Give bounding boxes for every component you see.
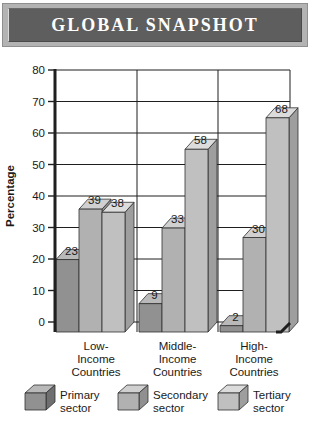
- category-label: Countries: [229, 366, 278, 378]
- legend-swatch-primary-sector-front: [25, 393, 46, 410]
- legend-label: Primary: [60, 389, 100, 401]
- bar-tertiary-sector-low-front: [102, 212, 125, 332]
- bar-tertiary-sector-low-side: [125, 202, 134, 332]
- category-label: Income: [77, 353, 115, 365]
- page: GLOBAL SNAPSHOT 233938933582306801020304…: [0, 0, 310, 430]
- legend-label: Secondary: [153, 389, 208, 401]
- y-tick-label: 70: [32, 96, 45, 108]
- category-label: High-: [240, 340, 268, 352]
- y-tick-label: 10: [32, 285, 45, 297]
- category-label: Countries: [71, 366, 120, 378]
- bar-value-label: 23: [65, 245, 78, 257]
- y-tick-label: 50: [32, 159, 45, 171]
- legend-swatch-tertiary-sector-front: [218, 393, 239, 410]
- bar-value-label: 39: [88, 194, 101, 206]
- category-label: Middle-: [159, 340, 197, 352]
- y-tick-label: 80: [32, 64, 45, 76]
- title-banner: GLOBAL SNAPSHOT: [2, 3, 308, 47]
- legend-swatch-secondary-sector-front: [118, 393, 139, 410]
- bar-tertiary-sector-high-front: [266, 118, 289, 332]
- y-tick-label: 20: [32, 253, 45, 265]
- bar-primary-sector-high-front: [220, 326, 243, 332]
- bar-tertiary-sector-high-side: [289, 108, 298, 332]
- y-tick-label: 30: [32, 222, 45, 234]
- bar-value-label: 58: [194, 134, 207, 146]
- y-tick-label: 0: [39, 316, 45, 328]
- category-label: Income: [159, 353, 197, 365]
- page-title: GLOBAL SNAPSHOT: [51, 15, 259, 36]
- y-axis-title: Percentage: [4, 165, 16, 227]
- bar-value-label: 68: [275, 103, 288, 115]
- bar-value-label: 38: [111, 197, 124, 209]
- bar-tertiary-sector-middle-side: [208, 139, 217, 332]
- y-tick-label: 60: [32, 127, 45, 139]
- title-banner-panel: GLOBAL SNAPSHOT: [8, 8, 302, 42]
- bar-primary-sector-middle-front: [139, 304, 162, 332]
- bar-tertiary-sector-middle-front: [185, 149, 208, 332]
- legend-label: sector: [60, 402, 91, 414]
- bar-secondary-sector-low-front: [79, 209, 102, 332]
- category-label: Countries: [153, 366, 202, 378]
- bar-value-label: 33: [171, 213, 184, 225]
- bar-value-label: 30: [252, 223, 265, 235]
- bar-value-label: 9: [151, 289, 157, 301]
- category-label: Low-: [84, 340, 109, 352]
- legend-label: sector: [253, 402, 284, 414]
- legend-label: Tertiary: [253, 389, 291, 401]
- bar-primary-sector-low-front: [56, 260, 79, 332]
- legend-label: sector: [153, 402, 184, 414]
- category-label: Income: [235, 353, 273, 365]
- bar-secondary-sector-middle-front: [162, 228, 185, 332]
- y-tick-label: 40: [32, 190, 45, 202]
- bar-secondary-sector-high-front: [243, 238, 266, 333]
- bar-chart: 233938933582306801020304050607080Low-Inc…: [0, 55, 310, 430]
- bar-value-label: 2: [232, 311, 238, 323]
